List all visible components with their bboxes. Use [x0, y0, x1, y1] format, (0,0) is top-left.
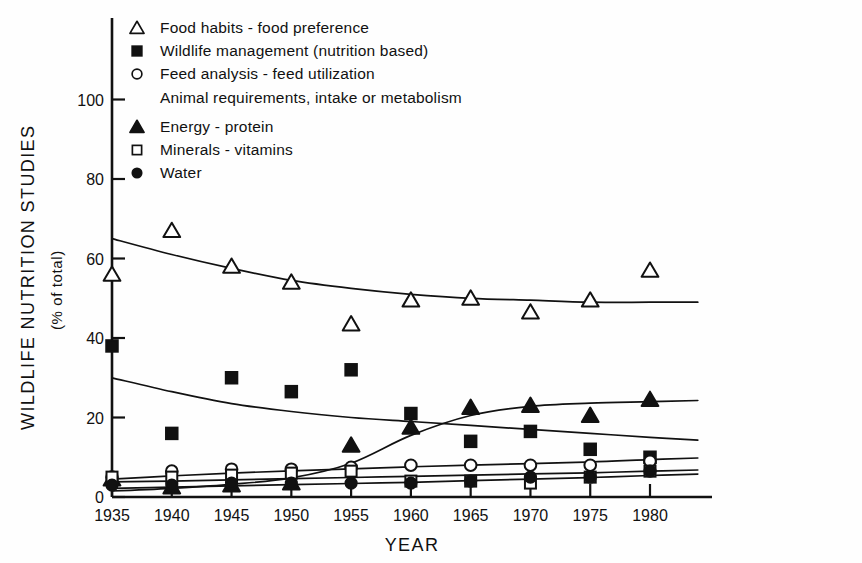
- data-point-open-circle: [465, 459, 477, 471]
- x-tick-label: 1950: [274, 507, 310, 524]
- x-tick-label: 1960: [393, 507, 429, 524]
- legend-label: Animal requirements, intake or metabolis…: [160, 89, 462, 106]
- data-point-filled-square: [584, 444, 596, 456]
- x-axis-title: YEAR: [385, 535, 440, 555]
- legend-marker-filled-square: [132, 46, 142, 56]
- data-point-open-circle: [405, 459, 417, 471]
- y-tick-label: 80: [86, 171, 104, 188]
- data-point-filled-circle: [465, 476, 476, 487]
- data-point-filled-square: [106, 340, 118, 352]
- data-point-filled-circle: [166, 479, 177, 490]
- y-tick-label: 0: [95, 489, 104, 506]
- x-tick-label: 1970: [513, 507, 549, 524]
- data-point-filled-circle: [525, 472, 536, 483]
- legend-label: Wildlife management (nutrition based): [160, 42, 428, 59]
- x-tick-label: 1935: [94, 507, 130, 524]
- data-point-filled-circle: [286, 477, 297, 488]
- y-tick-label: 100: [77, 92, 104, 109]
- wildlife-nutrition-studies-chart: 020406080100 193519401945195019551960196…: [0, 0, 862, 563]
- y-axis-subtitle: (% of total): [48, 250, 65, 330]
- y-tick-label: 40: [86, 330, 104, 347]
- x-tick-label: 1940: [154, 507, 190, 524]
- legend-marker-filled-circle: [132, 168, 141, 177]
- data-point-filled-circle: [346, 477, 357, 488]
- data-point-filled-circle: [644, 466, 655, 477]
- legend-label: Minerals - vitamins: [160, 141, 293, 158]
- figure-container: 020406080100 193519401945195019551960196…: [0, 0, 862, 563]
- legend-label: Feed analysis - feed utilization: [160, 65, 375, 82]
- y-tick-label: 60: [86, 251, 104, 268]
- data-point-filled-circle: [585, 472, 596, 483]
- x-tick-label: 1975: [572, 507, 608, 524]
- y-axis-title: WILDLIFE NUTRITION STUDIES: [18, 125, 38, 430]
- x-tick-label: 1965: [453, 507, 489, 524]
- data-point-filled-square: [345, 364, 357, 376]
- data-point-open-circle: [525, 459, 537, 471]
- legend-marker-open-square: [132, 145, 141, 154]
- data-point-filled-square: [465, 436, 477, 448]
- legend-label: Energy - protein: [160, 118, 273, 135]
- data-point-filled-circle: [405, 477, 416, 488]
- data-point-filled-square: [286, 386, 298, 398]
- y-tick-label: 20: [86, 410, 104, 427]
- data-point-filled-circle: [106, 479, 117, 490]
- legend-label: Food habits - food preference: [160, 19, 369, 36]
- x-tick-label: 1980: [632, 507, 668, 524]
- data-point-filled-circle: [226, 477, 237, 488]
- legend-marker-open-circle: [132, 69, 142, 79]
- data-point-filled-square: [226, 372, 238, 384]
- data-point-filled-square: [166, 428, 178, 440]
- data-point-open-circle: [584, 459, 596, 471]
- legend-label: Water: [160, 164, 202, 181]
- data-point-open-square: [346, 466, 357, 477]
- data-point-filled-square: [405, 408, 417, 420]
- x-tick-label: 1945: [214, 507, 250, 524]
- data-point-filled-square: [525, 426, 537, 438]
- x-tick-label: 1955: [333, 507, 369, 524]
